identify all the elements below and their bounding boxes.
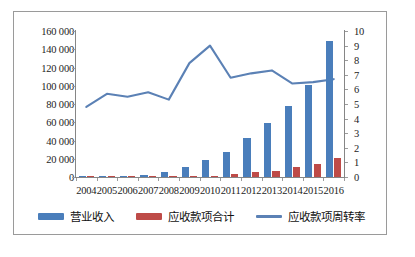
x-axis-tick: [138, 178, 139, 181]
x-axis-tick-label: 2016: [324, 185, 344, 196]
bar-receivables: [231, 174, 238, 177]
turnover-line-series: [76, 31, 344, 177]
x-axis-tick-label: 2012: [241, 185, 261, 196]
bar-receivables: [108, 176, 115, 177]
bar-revenue: [99, 176, 106, 177]
y-axis-right-tick: [345, 133, 348, 134]
y-axis-right-tick-label: 3: [354, 128, 359, 139]
legend-item-label: 应收款项合计: [168, 208, 234, 224]
x-axis-tick: [179, 178, 180, 181]
x-axis-tick: [282, 178, 283, 181]
bar-revenue: [120, 176, 127, 177]
y-axis-right-tick: [345, 31, 348, 32]
bar-receivables: [211, 176, 218, 177]
bar-revenue: [243, 138, 250, 177]
x-axis-tick-label: 2005: [97, 185, 117, 196]
legend-item[interactable]: 应收款项合计: [136, 208, 234, 224]
y-axis-right-tick-label: 8: [354, 55, 359, 66]
x-axis: 2004200520062007200820092010201120122013…: [14, 185, 388, 205]
bar-revenue: [305, 85, 312, 177]
chart-plot-wrapper: 020 00040 00060 00080 000100 000120 0001…: [14, 12, 388, 236]
y-axis-right-tick-label: 4: [354, 113, 359, 124]
x-axis-tick: [200, 178, 201, 181]
y-axis-right-tick-label: 10: [354, 26, 364, 37]
bar-receivables: [314, 164, 321, 177]
y-axis-right-tick-label: 9: [354, 40, 359, 51]
chart-container: 020 00040 00060 00080 000100 000120 0001…: [13, 11, 387, 235]
y-axis-left-tick-label: 140 000: [41, 44, 74, 55]
x-axis-tick: [97, 178, 98, 181]
y-axis-right-tick: [345, 75, 348, 76]
x-axis-tick: [262, 178, 263, 181]
x-axis-tick: [220, 178, 221, 181]
bar-revenue: [285, 106, 292, 177]
bar-revenue: [326, 41, 333, 177]
y-axis-left-tick: [72, 49, 75, 50]
y-axis-left-tick-label: 40 000: [46, 135, 74, 146]
y-axis-left-tick: [72, 177, 75, 178]
bar-receivables: [190, 176, 197, 177]
bar-receivables: [87, 176, 94, 177]
x-axis-tick: [323, 178, 324, 181]
x-axis-tick-label: 2013: [262, 185, 282, 196]
chart-legend: 营业收入应收款项合计应收款项周转率: [14, 208, 388, 224]
y-axis-left-tick: [72, 122, 75, 123]
x-axis-tick-label: 2007: [138, 185, 158, 196]
y-axis-right-tick-label: 0: [354, 172, 359, 183]
x-axis-tick: [76, 178, 77, 181]
bar-receivables: [293, 167, 300, 177]
y-axis-right-tick: [345, 89, 348, 90]
y-axis-right-tick: [345, 148, 348, 149]
y-axis-left-tick-label: 100 000: [41, 80, 74, 91]
bar-revenue: [182, 167, 189, 177]
y-axis-right-tick: [345, 46, 348, 47]
x-axis-tick-label: 2006: [117, 185, 137, 196]
y-axis-right-tick-label: 1: [354, 157, 359, 168]
legend-line-swatch-icon: [256, 215, 282, 218]
y-axis-right-tick-label: 2: [354, 142, 359, 153]
y-axis-left-tick: [72, 31, 75, 32]
axis-line-baseline: [75, 177, 345, 178]
x-axis-tick-label: 2014: [282, 185, 302, 196]
x-axis-tick-label: 2004: [76, 185, 96, 196]
x-axis-tick: [158, 178, 159, 181]
bar-receivables: [334, 158, 341, 177]
y-axis-left-tick: [72, 141, 75, 142]
x-axis-tick-label: 2008: [159, 185, 179, 196]
x-axis-tick: [117, 178, 118, 181]
legend-bar-swatch-icon: [38, 213, 64, 220]
y-axis-right-tick: [345, 177, 348, 178]
y-axis-left-tick: [72, 159, 75, 160]
bar-receivables: [169, 176, 176, 177]
bar-receivables: [252, 172, 259, 177]
bar-revenue: [202, 160, 209, 177]
bar-revenue: [161, 172, 168, 177]
bar-receivables: [128, 176, 135, 177]
x-axis-tick-label: 2011: [221, 185, 241, 196]
x-axis-tick: [344, 178, 345, 181]
y-axis-left-tick-label: 120 000: [41, 62, 74, 73]
legend-item[interactable]: 营业收入: [38, 208, 114, 224]
y-axis-right-tick: [345, 162, 348, 163]
x-axis-tick-label: 2009: [179, 185, 199, 196]
bar-revenue: [264, 123, 271, 177]
bar-revenue: [223, 152, 230, 177]
y-axis-right-tick: [345, 119, 348, 120]
legend-item[interactable]: 应收款项周转率: [256, 208, 365, 224]
y-axis-right-tick-label: 6: [354, 84, 359, 95]
bar-receivables: [149, 176, 156, 177]
bar-revenue: [79, 176, 86, 177]
y-axis-right-tick-label: 7: [354, 69, 359, 80]
y-axis-left-tick-label: 60 000: [46, 117, 74, 128]
x-axis-tick: [303, 178, 304, 181]
x-axis-tick: [241, 178, 242, 181]
bar-revenue: [140, 175, 147, 177]
x-axis-tick-label: 2015: [303, 185, 323, 196]
y-axis-right-tick: [345, 60, 348, 61]
y-axis-right-tick: [345, 104, 348, 105]
legend-item-label: 应收款项周转率: [288, 208, 365, 224]
plot-area: [76, 31, 344, 177]
bar-receivables: [272, 171, 279, 177]
y-axis-left-tick: [72, 68, 75, 69]
legend-item-label: 营业收入: [70, 208, 114, 224]
